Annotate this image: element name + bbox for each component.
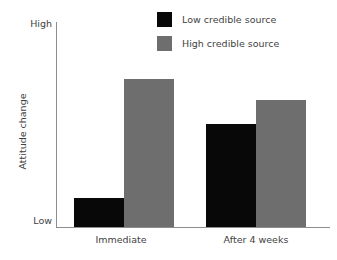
legend-item-low-credible-source: Low credible source — [157, 11, 279, 27]
legend-swatch-icon — [157, 12, 172, 27]
bar-1-1 — [256, 100, 306, 227]
bar-0-1 — [206, 124, 256, 227]
x-axis-category-label: Immediate — [61, 234, 181, 245]
legend-item-label: High credible source — [182, 38, 279, 49]
bar-1-0 — [124, 79, 174, 227]
y-axis-tick-low: Low — [0, 216, 52, 226]
bar-chart: High Low Attitude change Immediate After… — [0, 0, 337, 260]
bar-0-0 — [74, 198, 124, 227]
legend-item-high-credible-source: High credible source — [157, 35, 279, 51]
legend-item-label: Low credible source — [182, 14, 276, 25]
y-axis-title: Attitude change — [17, 77, 28, 187]
chart-legend: Low credible source High credible source — [157, 11, 279, 59]
legend-swatch-icon — [157, 36, 172, 51]
y-axis-tick-high: High — [0, 19, 52, 29]
x-axis-line — [56, 227, 330, 228]
x-axis-category-label: After 4 weeks — [196, 234, 316, 245]
